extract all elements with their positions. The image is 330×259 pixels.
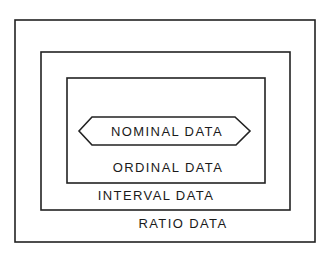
data-scales-diagram: NOMINAL DATA ORDINAL DATA INTERVAL DATA …: [0, 0, 330, 259]
ordinal-data-label: ORDINAL DATA: [113, 160, 223, 175]
interval-data-label: INTERVAL DATA: [98, 188, 214, 203]
nominal-data-label: NOMINAL DATA: [111, 124, 223, 139]
ratio-data-label: RATIO DATA: [138, 216, 227, 231]
